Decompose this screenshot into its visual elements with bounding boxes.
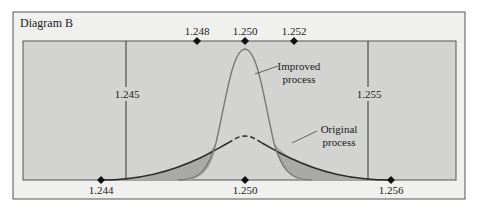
diagram-title: Diagram B [20, 16, 73, 30]
bottom-marker-label: 1.256 [379, 184, 404, 196]
bottom-marker-label: 1.244 [89, 184, 114, 196]
top-marker-label: 1.252 [282, 25, 307, 37]
bottom-marker-label: 1.250 [233, 184, 258, 196]
original-label-1: Original [321, 123, 358, 135]
process-diagram: Diagram B 1.245 1.255 Improved process O… [0, 0, 490, 219]
improved-label-1: Improved [278, 60, 321, 72]
lower-spec-label: 1.245 [115, 88, 140, 100]
plot-area [23, 41, 456, 180]
top-marker-label: 1.248 [185, 25, 210, 37]
improved-label-2: process [283, 73, 316, 85]
upper-spec-label: 1.255 [357, 88, 382, 100]
top-marker-label: 1.250 [233, 25, 258, 37]
original-label-2: process [323, 136, 356, 148]
